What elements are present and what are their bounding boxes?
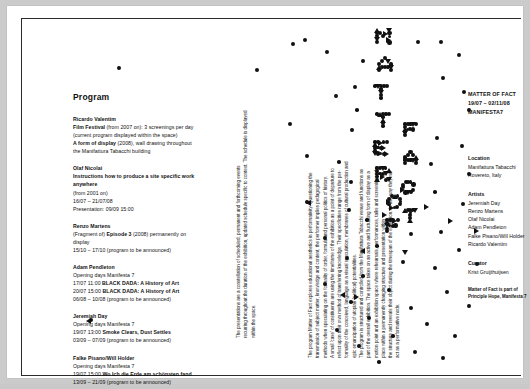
info-footnote-line: Matter of Fact is part of bbox=[468, 287, 530, 294]
essay-line: methods when speculating on the formalit… bbox=[322, 161, 329, 358]
program-entry-artist: Olaf Nicolai bbox=[73, 164, 201, 172]
program-entry-line: 06/08 – 10/08 (program to be announced) bbox=[73, 295, 201, 303]
program-entry-list: Ricardo ValentimFilm Festival (from 2007… bbox=[73, 115, 201, 386]
program-entry: Olaf NicolaiInstructions how to produce … bbox=[73, 164, 201, 212]
program-entry-line: 16/07 – 21/07/08 bbox=[73, 197, 201, 205]
info-column: MATTER OF FACT19/07 – 02/11/08MANIFESTA7… bbox=[468, 90, 530, 301]
info-group: CuratorKrist Gruijthuijsen bbox=[468, 259, 530, 276]
program-entry-line: (from 2001 on) bbox=[73, 189, 201, 197]
essay-line: part of the overall exhibition. The spac… bbox=[365, 161, 372, 358]
essay-line: A small 'case' of constituents are using… bbox=[329, 161, 336, 358]
program-entry-line: Opening days Manifesta 7 bbox=[73, 362, 201, 370]
essay-line: formality of the conceived, language as … bbox=[343, 161, 350, 358]
info-group-value: Rovereto, Italy bbox=[468, 171, 530, 179]
info-group-value: Olaf Nicolai bbox=[468, 215, 530, 223]
program-entry-line: Film Festival (from 2007 on): 3 screenin… bbox=[73, 123, 201, 131]
essay-line: place within a permanently changing stru… bbox=[380, 161, 387, 358]
program-entry: Renzo Martens(Fragment of) Episode 3 (20… bbox=[73, 222, 201, 254]
program-entry-line: 15/10 – 17/10 (program to be announced) bbox=[73, 246, 201, 254]
program-entry-artist: Jeremiah Day bbox=[73, 312, 201, 320]
program-entry-line: A form of display (2008), wall drawing t… bbox=[73, 139, 201, 147]
program-entry-line: the Manifattura Tabacchi building bbox=[73, 147, 201, 155]
program-entry: Jeremiah DayOpening days Manifesta 719/0… bbox=[73, 312, 201, 344]
poster-sheet: Program Ricardo ValentimFilm Festival (f… bbox=[7, 6, 523, 378]
info-footnote-line: Principle Hope, Manifesta 7 bbox=[468, 294, 530, 301]
essay-line: The presentations are a constellation of… bbox=[235, 110, 242, 338]
info-group-value: Ricardo Valentim bbox=[468, 240, 530, 248]
essay-line: within the space. bbox=[250, 110, 257, 338]
info-footnote: Matter of Fact is part ofPrinciple Hope,… bbox=[468, 287, 530, 301]
essay-line: epic emancipation of utopian (political)… bbox=[351, 161, 358, 358]
program-entry-artist: Ricardo Valentim bbox=[73, 115, 201, 123]
program-column: Program Ricardo ValentimFilm Festival (f… bbox=[73, 92, 201, 389]
info-group-value: Adam Pendleton bbox=[468, 223, 530, 231]
program-entry-line: 20/07 15:00 BLACK DADA: A History of Art bbox=[73, 287, 201, 295]
program-entry-artist: Adam Pendleton bbox=[73, 263, 201, 271]
info-group: ArtistsJeremiah DayRenzo MartensOlaf Nic… bbox=[468, 190, 530, 248]
program-entry-line: 03/09 – 07/09 (program to be announced) bbox=[73, 336, 201, 344]
exhibition-title-line: MATTER OF FACT bbox=[468, 90, 530, 99]
exhibition-title: MATTER OF FACT19/07 – 02/11/08MANIFESTA7 bbox=[468, 90, 530, 116]
essay-line: act as a performative node. bbox=[394, 161, 401, 358]
program-entry-line: 19/07 15:00 Wo Ich die Erde am schönsten… bbox=[73, 370, 201, 378]
program-entry-line: Presentation: 09/09 15:00 bbox=[73, 205, 201, 213]
info-group-value: Renzo Martens bbox=[468, 207, 530, 215]
exhibition-title-line: MANIFESTA7 bbox=[468, 108, 530, 117]
program-heading: Program bbox=[73, 92, 201, 102]
info-group-label: Artists bbox=[468, 190, 530, 198]
program-entry-line: (current program displayed within the sp… bbox=[73, 131, 201, 139]
program-entry-line: 17/07 11:00 BLACK DADA: A History of Art bbox=[73, 279, 201, 287]
info-group-value: Falke Pisano/Will Holder bbox=[468, 232, 530, 240]
info-group-label: Curator bbox=[468, 259, 530, 267]
program-entry-line: 13/09 – 21/09 (program to be announced) bbox=[73, 378, 201, 386]
program-entry-line: Instructions how to produce a site speci… bbox=[73, 172, 201, 188]
info-group-value: Manifattura Tabacchi bbox=[468, 163, 530, 171]
info-group: LocationManifattura TabacchiRovereto, It… bbox=[468, 154, 530, 179]
program-entry-line: Opening days Manifesta 7 bbox=[73, 320, 201, 328]
essay-line: The program is structured and controlled… bbox=[358, 161, 365, 358]
program-entry-line: (Fragment of) Episode 3 (2008) permanent… bbox=[73, 230, 201, 246]
essay-line: reflect upon their own method of transfe… bbox=[336, 161, 343, 358]
essay-column-right: The program Matter of Fact explores educ… bbox=[307, 161, 402, 358]
essay-line: recurring throughout the duration of the… bbox=[242, 110, 249, 338]
program-entry-line: 19/07 13:00 Smoke Clears, Dust Settles bbox=[73, 328, 201, 336]
info-group-label: Location bbox=[468, 154, 530, 162]
info-group-list: LocationManifattura TabacchiRovereto, It… bbox=[468, 154, 530, 276]
program-entry-artist: Renzo Martens bbox=[73, 222, 201, 230]
program-entry: Ricardo ValentimFilm Festival (from 2007… bbox=[73, 115, 201, 155]
essay-column-left: The presentations are a constellation of… bbox=[235, 110, 257, 338]
info-group-value: Krist Gruijthuijsen bbox=[468, 268, 530, 276]
exhibition-title-line: 19/07 – 02/11/08 bbox=[468, 99, 530, 108]
essay-line: motion point and an exhibition space whe… bbox=[373, 161, 380, 358]
program-entry-line: Opening days Manifesta 7 bbox=[73, 271, 201, 279]
program-entry-artist: Falke Pisano/Will Holder bbox=[73, 354, 201, 362]
essay-line: transmission of subject matter, knowledg… bbox=[314, 161, 321, 358]
program-entry: Falke Pisano/Will HolderOpening days Man… bbox=[73, 354, 201, 386]
essay-line: The program Matter of Fact explores educ… bbox=[307, 161, 314, 358]
program-entry: Adam PendletonOpening days Manifesta 717… bbox=[73, 263, 201, 303]
essay-line: the structure and reveals their object d… bbox=[387, 161, 394, 358]
info-group-value: Jeremiah Day bbox=[468, 199, 530, 207]
